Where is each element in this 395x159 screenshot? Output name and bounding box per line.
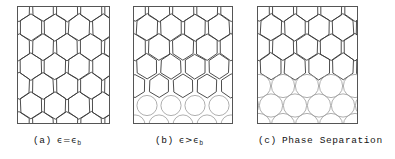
figure-root: (a)ϵ=ϵb (b)ϵ>ϵb (c)Phase Separation: [0, 0, 395, 159]
caption-panel-c: (c)Phase Separation: [258, 136, 383, 146]
caption-panel-a: (a)ϵ=ϵb: [33, 136, 82, 146]
caption-a-symbol: ϵ=ϵ: [57, 135, 77, 145]
caption-b-tag: (b): [155, 135, 174, 146]
panel-b-transition-lattice: [133, 6, 233, 124]
panel-a-hexagonal-lattice: [17, 6, 110, 124]
caption-a-tag: (a): [33, 135, 52, 146]
caption-a-subscript: b: [77, 140, 82, 147]
caption-c-tag: (c): [258, 135, 277, 146]
caption-panel-b: (b)ϵ>ϵb: [155, 136, 204, 146]
panel-c-phase-separated-lattice: [257, 6, 358, 124]
caption-c-symbol: Phase Separation: [282, 135, 383, 146]
caption-b-symbol: ϵ>ϵ: [179, 135, 199, 145]
caption-b-subscript: b: [199, 140, 204, 147]
